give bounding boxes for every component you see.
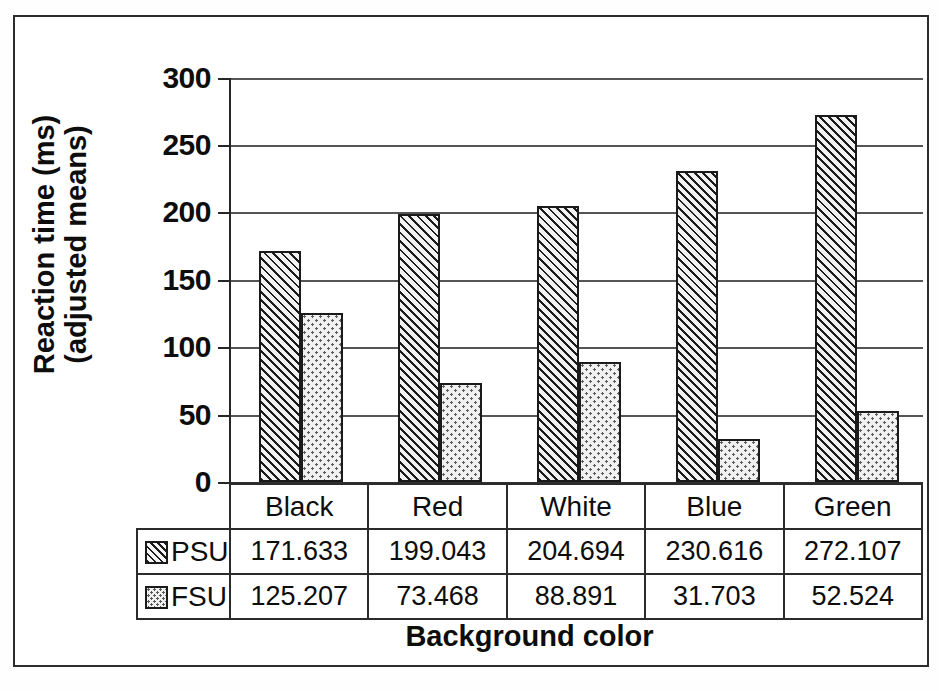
y-tick-mark-100 <box>218 347 229 349</box>
y-tick-label-50: 50 <box>115 398 211 432</box>
figure-bar-chart-reaction-time: Reaction time (ms) (adjusted means) 300 … <box>0 0 939 691</box>
legend-swatch-fsu-icon <box>145 586 168 609</box>
table-header-blue: Blue <box>645 484 783 529</box>
table-row-fsu: FSU 125.207 73.468 88.891 31.703 52.524 <box>137 574 922 619</box>
cell-psu-black: 171.633 <box>230 529 368 574</box>
cell-fsu-black: 125.207 <box>230 574 368 619</box>
cell-psu-red: 199.043 <box>368 529 506 574</box>
gridline-300 <box>231 78 923 80</box>
bar-fsu-blue <box>718 439 760 482</box>
table-corner-blank <box>137 484 230 529</box>
y-tick-label-150: 150 <box>115 263 211 297</box>
bar-fsu-white <box>579 362 621 482</box>
y-tick-label-200: 200 <box>115 195 211 229</box>
cell-psu-green: 272.107 <box>784 529 922 574</box>
y-tick-mark-150 <box>218 280 229 282</box>
legend-entry-psu: PSU <box>137 529 230 574</box>
bar-psu-green <box>815 115 857 482</box>
legend-entry-fsu: FSU <box>137 574 230 619</box>
table-header-green: Green <box>784 484 922 529</box>
y-tick-label-300: 300 <box>115 61 211 95</box>
bar-fsu-red <box>440 383 482 482</box>
bar-psu-black <box>259 251 301 482</box>
cell-psu-white: 204.694 <box>507 529 645 574</box>
plot-area <box>231 78 923 482</box>
y-tick-mark-50 <box>218 415 229 417</box>
bar-psu-blue <box>676 171 718 482</box>
table-header-white: White <box>507 484 645 529</box>
y-axis-title-line1: Reaction time (ms) <box>28 0 60 494</box>
y-tick-mark-250 <box>218 145 229 147</box>
x-axis-title: Background color <box>136 620 923 653</box>
y-tick-label-100: 100 <box>115 330 211 364</box>
table-header-black: Black <box>230 484 368 529</box>
cell-psu-blue: 230.616 <box>645 529 783 574</box>
y-tick-mark-300 <box>218 78 229 80</box>
legend-swatch-psu-icon <box>145 541 168 564</box>
cell-fsu-green: 52.524 <box>784 574 922 619</box>
table-row-psu: PSU 171.633 199.043 204.694 230.616 272.… <box>137 529 922 574</box>
data-table: Black Red White Blue Green PSU 171.633 1… <box>136 483 923 620</box>
y-axis-title-line2: (adjusted means) <box>60 0 92 494</box>
y-tick-label-250: 250 <box>115 128 211 162</box>
legend-label-psu: PSU <box>171 536 229 568</box>
cell-fsu-white: 88.891 <box>507 574 645 619</box>
cell-fsu-blue: 31.703 <box>645 574 783 619</box>
table-header-red: Red <box>368 484 506 529</box>
bar-psu-red <box>398 214 440 482</box>
table-row-categories: Black Red White Blue Green <box>137 484 922 529</box>
y-tick-mark-200 <box>218 212 229 214</box>
bar-fsu-green <box>857 411 899 482</box>
legend-label-fsu: FSU <box>171 581 227 613</box>
chart-outer-frame: Reaction time (ms) (adjusted means) 300 … <box>13 15 929 667</box>
y-axis-title: Reaction time (ms) (adjusted means) <box>28 0 93 494</box>
bar-psu-white <box>537 206 579 482</box>
bar-fsu-black <box>301 313 343 482</box>
cell-fsu-red: 73.468 <box>368 574 506 619</box>
